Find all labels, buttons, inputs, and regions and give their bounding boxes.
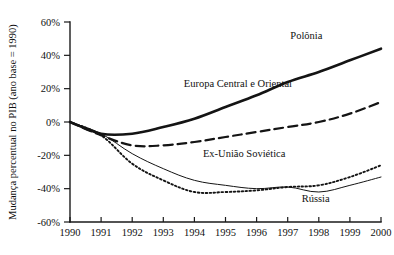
y-tick-label: 60% [41,17,61,28]
x-tick-label: 1991 [91,227,112,238]
x-axis-ticks [70,217,381,222]
series-line-0 [70,49,381,135]
series-line-1 [70,102,381,146]
x-tick-label: 1993 [153,227,174,238]
x-tick-label: 1995 [215,227,236,238]
y-tick-label: -60% [37,217,60,228]
y-tick-label: -40% [37,183,60,194]
series-lines [70,49,381,193]
series-label-3: Rússia [302,193,330,204]
y-axis-title: Mudança percentual no PIB (ano base = 19… [7,24,19,220]
series-label-0: Polônia [290,30,322,41]
series-label-1: Europa Central e Oriental [184,78,292,89]
x-tick-label: 1997 [277,227,298,238]
chart-container: 60%40%20%0%-20%-40%-60% 1990199119921993… [0,0,394,255]
y-tick-label: 40% [41,50,61,61]
x-tick-label: 1998 [308,227,329,238]
x-axis-tick-labels: 1990199119921993199419951996199719981999… [60,227,392,238]
x-tick-label: 1992 [122,227,143,238]
x-tick-label: 1994 [184,227,206,238]
x-tick-label: 1999 [339,227,360,238]
y-tick-label: 0% [46,117,60,128]
y-tick-label: -20% [37,150,60,161]
y-tick-label: 20% [41,83,61,94]
y-axis-tick-labels: 60%40%20%0%-20%-40%-60% [37,17,60,228]
x-tick-label: 2000 [371,227,392,238]
x-tick-label: 1990 [60,227,81,238]
series-label-2: Ex-União Soviética [203,148,286,159]
series-inline-labels: PolôniaEuropa Central e OrientalEx-União… [184,30,330,204]
gdp-change-line-chart: 60%40%20%0%-20%-40%-60% 1990199119921993… [0,0,394,255]
x-tick-label: 1996 [246,227,267,238]
